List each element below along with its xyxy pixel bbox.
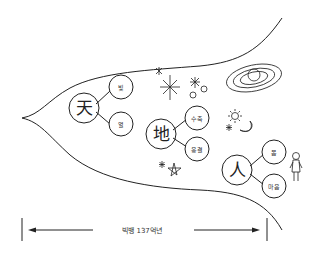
star-outline-icon: [168, 163, 181, 176]
arrow-right-icon: [252, 228, 260, 233]
node-earth-label: 地: [153, 124, 170, 144]
star-icon: [159, 161, 165, 168]
sun-icon: [228, 109, 242, 123]
moon-icon: [240, 121, 252, 132]
flower-star-icon: [190, 86, 207, 98]
arrow-left-icon: [28, 228, 36, 233]
stick-figure-icon: [290, 153, 302, 182]
node-human-label: 人: [229, 160, 246, 180]
node-heat-label: 열: [118, 121, 124, 128]
universe-diagram: 天 빛 열 地 수축 응결 人 몸 마음: [0, 0, 320, 261]
node-human: 人 몸 마음: [222, 140, 286, 198]
node-condensation-label: 응결: [191, 146, 203, 153]
node-heaven-label: 天: [76, 98, 93, 118]
timeline-label: 빅뱅 137억년: [122, 226, 162, 235]
sparkle-icon: [160, 75, 180, 100]
star-icon: [226, 124, 232, 131]
node-contraction-label: 수축: [191, 115, 203, 123]
node-body-label: 몸: [271, 149, 277, 156]
star-icon: [190, 77, 200, 88]
timeline: 빅뱅 137억년: [22, 218, 267, 241]
star-icon: [156, 67, 162, 75]
node-earth: 地 수축 응결: [146, 106, 209, 161]
planet-icon: [224, 59, 284, 96]
node-mind-label: 마음: [268, 183, 280, 191]
node-light-label: 빛: [118, 84, 124, 92]
